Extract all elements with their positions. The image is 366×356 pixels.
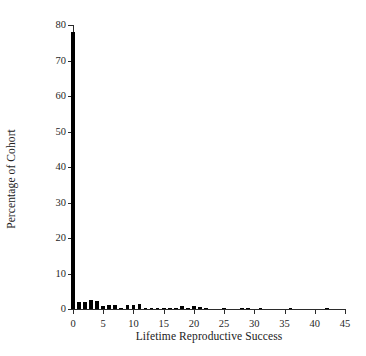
x-tick-label: 0 xyxy=(58,317,88,331)
bar xyxy=(71,32,75,309)
bar xyxy=(126,305,130,309)
y-tick-label: 20 xyxy=(56,231,67,245)
bar xyxy=(119,308,123,309)
x-tick-mark xyxy=(285,309,286,314)
bar xyxy=(222,308,226,309)
x-tick-mark xyxy=(194,309,195,314)
y-tick-label: 60 xyxy=(56,89,67,103)
x-axis-title: Lifetime Reproductive Success xyxy=(73,330,345,342)
bar xyxy=(83,302,87,309)
x-tick-mark xyxy=(133,309,134,314)
y-tick-label: 40 xyxy=(56,160,67,174)
x-tick-mark xyxy=(73,309,74,314)
bar xyxy=(101,306,105,309)
y-tick-label: 70 xyxy=(56,54,67,68)
bar xyxy=(180,306,184,309)
y-tick-label: 30 xyxy=(56,196,67,210)
x-tick-mark xyxy=(103,309,104,314)
x-tick-label: 15 xyxy=(149,317,179,331)
y-tick-label: 10 xyxy=(56,267,67,281)
x-tick-label: 25 xyxy=(209,317,239,331)
plot-area xyxy=(73,25,345,309)
x-tick-label: 45 xyxy=(330,317,360,331)
x-tick-label: 35 xyxy=(270,317,300,331)
y-tick-label: 0 xyxy=(61,302,66,316)
x-tick-label: 20 xyxy=(179,317,209,331)
y-tick-label: 50 xyxy=(56,125,67,139)
x-tick-label: 5 xyxy=(88,317,118,331)
x-tick-label: 40 xyxy=(300,317,330,331)
bar xyxy=(174,308,178,309)
bar xyxy=(240,308,244,309)
x-axis-line xyxy=(73,309,346,310)
x-tick-mark xyxy=(224,309,225,314)
bar xyxy=(162,308,166,309)
bar xyxy=(168,308,172,309)
bar xyxy=(198,307,202,309)
bar xyxy=(89,300,93,309)
bar xyxy=(186,308,190,309)
bar xyxy=(204,308,208,309)
bar xyxy=(77,302,81,309)
bar xyxy=(246,308,250,309)
bar xyxy=(113,305,117,309)
y-axis-title: Percentage of Cohort xyxy=(0,24,22,334)
bar xyxy=(150,308,154,309)
bar xyxy=(144,308,148,309)
x-tick-mark xyxy=(164,309,165,314)
bar xyxy=(138,304,142,309)
bar xyxy=(325,308,329,309)
bar xyxy=(95,301,99,309)
bar xyxy=(259,308,263,309)
bar xyxy=(156,308,160,309)
x-tick-mark xyxy=(315,309,316,314)
x-tick-mark xyxy=(345,309,346,314)
bar xyxy=(107,305,111,309)
x-tick-label: 10 xyxy=(118,317,148,331)
bar xyxy=(132,305,136,309)
y-tick-label: 80 xyxy=(56,18,67,32)
bar xyxy=(289,308,293,309)
x-tick-label: 30 xyxy=(239,317,269,331)
chart-figure: Percentage of Cohort 01020304050607080 0… xyxy=(0,0,366,356)
bar xyxy=(192,306,196,309)
x-tick-mark xyxy=(254,309,255,314)
